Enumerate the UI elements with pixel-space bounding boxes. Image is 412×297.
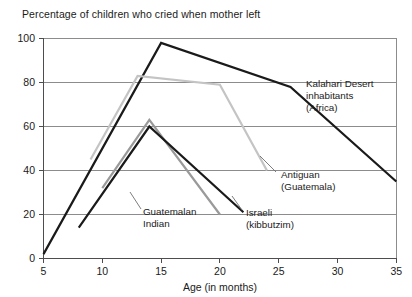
annotation-kalahari: Kalahari Desert inhabitants (Africa) <box>306 78 374 113</box>
x-tick-labels: 5 10 15 20 25 30 35 <box>41 265 403 277</box>
annotation-israeli-line1: Israeli <box>246 207 272 218</box>
annotation-kalahari-line3: (Africa) <box>306 102 338 113</box>
x-label-10: 10 <box>96 265 108 277</box>
y-label-20: 20 <box>23 208 35 220</box>
annotation-kalahari-line2: inhabitants <box>306 90 353 101</box>
annotation-antiguan-line2: (Guatemala) <box>281 181 335 192</box>
annotation-antiguan: Antiguan (Guatemala) <box>281 169 335 192</box>
gridlines <box>43 39 396 215</box>
annotation-guatemalan: Guatemalan Indian <box>143 206 196 229</box>
series-layer <box>44 43 397 254</box>
x-label-5: 5 <box>41 265 47 277</box>
annotation-israeli-line2: (kibbutzim) <box>246 219 294 230</box>
annotation-guatemalan-line2: Indian <box>143 218 170 229</box>
y-tick-labels: 100 80 60 40 20 0 <box>17 32 35 264</box>
x-label-35: 35 <box>390 265 402 277</box>
annotation-antiguan-line1: Antiguan <box>281 169 320 180</box>
y-label-100: 100 <box>17 32 35 44</box>
annotation-kalahari-line1: Kalahari Desert <box>306 78 374 89</box>
x-axis-title: Age (in months) <box>183 281 257 293</box>
annotation-israeli: Israeli (kibbutzim) <box>246 207 294 230</box>
y-label-80: 80 <box>23 76 35 88</box>
y-label-60: 60 <box>23 120 35 132</box>
leader-guatemalan <box>130 192 141 209</box>
y-tickmarks <box>39 39 43 259</box>
y-label-40: 40 <box>23 164 35 176</box>
annotation-guatemalan-line1: Guatemalan <box>143 206 196 217</box>
chart-container: Percentage of children who cried when mo… <box>0 0 412 297</box>
x-label-20: 20 <box>214 265 226 277</box>
x-label-30: 30 <box>332 265 344 277</box>
y-label-0: 0 <box>29 252 35 264</box>
annotation-leaders <box>130 156 276 210</box>
chart-plot-area: 100 80 60 40 20 0 5 10 15 20 25 30 35 Ag… <box>0 0 412 297</box>
x-label-25: 25 <box>273 265 285 277</box>
x-label-15: 15 <box>155 265 167 277</box>
